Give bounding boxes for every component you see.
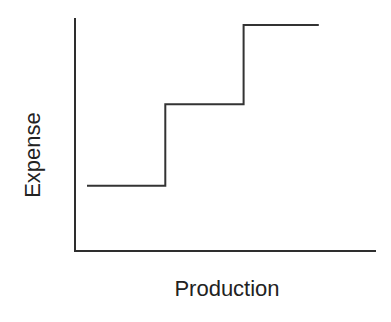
expense-step-line [87, 25, 319, 186]
step-chart [0, 0, 391, 322]
y-axis-label: Expense [20, 112, 46, 198]
x-axis-label: Production [174, 276, 279, 302]
